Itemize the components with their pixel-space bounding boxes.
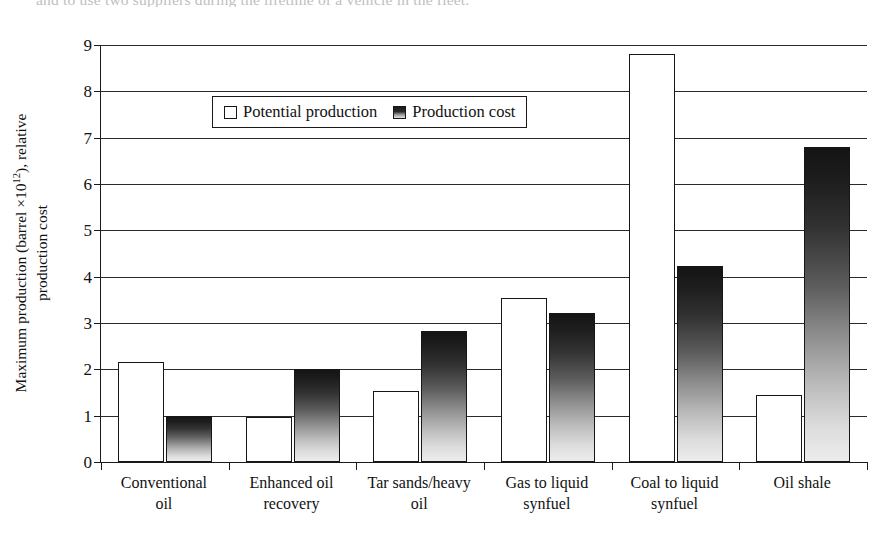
bar-potential-production bbox=[118, 362, 164, 462]
legend-entry: Production cost bbox=[393, 102, 515, 122]
x-category-label: Coal to liquidsynfuel bbox=[611, 472, 739, 515]
bar-potential-production bbox=[756, 395, 802, 462]
chart-legend: Potential productionProduction cost bbox=[212, 96, 527, 128]
legend-label: Potential production bbox=[243, 102, 377, 122]
y-tick-mark bbox=[94, 138, 101, 139]
x-category-label-line2: oil bbox=[355, 493, 483, 514]
bar-production-cost bbox=[421, 331, 467, 462]
bar-production-cost bbox=[294, 369, 340, 462]
x-category-label: Conventionaloil bbox=[100, 472, 228, 515]
gridline bbox=[101, 45, 867, 46]
x-category-label-line1: Oil shale bbox=[738, 472, 866, 493]
y-tick-mark bbox=[94, 230, 101, 231]
plot-area: Potential productionProduction cost bbox=[100, 45, 867, 463]
y-tick-label: 0 bbox=[66, 454, 92, 471]
gridline bbox=[101, 323, 867, 324]
x-tick-mark bbox=[356, 462, 357, 470]
y-tick-label: 9 bbox=[66, 37, 92, 54]
x-axis-category-labels: ConventionaloilEnhanced oilrecoveryTar s… bbox=[100, 472, 866, 536]
gridline bbox=[101, 230, 867, 231]
legend-entry: Potential production bbox=[224, 102, 377, 122]
bar-potential-production bbox=[501, 298, 547, 462]
y-tick-mark bbox=[94, 416, 101, 417]
bar-production-cost bbox=[804, 147, 850, 462]
y-tick-label: 6 bbox=[66, 176, 92, 193]
bar-production-cost bbox=[166, 416, 212, 462]
y-tick-label: 4 bbox=[66, 268, 92, 285]
bar-potential-production bbox=[373, 391, 419, 462]
y-tick-label: 2 bbox=[66, 361, 92, 378]
x-tick-mark bbox=[867, 462, 868, 470]
figure: and to use two suppliers during the life… bbox=[0, 0, 893, 542]
x-category-label-line2: oil bbox=[100, 493, 228, 514]
x-category-label: Oil shale bbox=[738, 472, 866, 493]
y-tick-mark bbox=[94, 184, 101, 185]
y-tick-mark bbox=[94, 462, 101, 463]
bar-production-cost bbox=[549, 313, 595, 462]
y-tick-label: 3 bbox=[66, 315, 92, 332]
gridline bbox=[101, 138, 867, 139]
x-category-label-line1: Enhanced oil bbox=[228, 472, 356, 493]
bar-production-cost bbox=[677, 266, 723, 462]
y-tick-mark bbox=[94, 45, 101, 46]
y-tick-mark bbox=[94, 91, 101, 92]
y-tick-mark bbox=[94, 323, 101, 324]
y-axis-exponent: 12 bbox=[11, 173, 22, 184]
x-tick-mark bbox=[612, 462, 613, 470]
y-tick-label: 1 bbox=[66, 407, 92, 424]
y-axis-title: Maximum production (barrel ×1012), relat… bbox=[0, 38, 62, 468]
y-tick-label: 7 bbox=[66, 129, 92, 146]
legend-swatch-production-cost-icon bbox=[393, 106, 406, 119]
x-category-label-line2: synfuel bbox=[611, 493, 739, 514]
legend-swatch-potential-production-icon bbox=[224, 106, 237, 119]
x-category-label: Enhanced oilrecovery bbox=[228, 472, 356, 515]
x-category-label-line1: Coal to liquid bbox=[611, 472, 739, 493]
gridline bbox=[101, 91, 867, 92]
gridline bbox=[101, 277, 867, 278]
y-tick-mark bbox=[94, 277, 101, 278]
x-category-label: Gas to liquidsynfuel bbox=[483, 472, 611, 515]
gridline bbox=[101, 369, 867, 370]
bar-potential-production bbox=[246, 417, 292, 462]
y-axis-tick-labels: 0123456789 bbox=[62, 45, 92, 462]
x-category-label-line2: synfuel bbox=[483, 493, 611, 514]
legend-label: Production cost bbox=[412, 102, 515, 122]
x-category-label-line1: Conventional bbox=[100, 472, 228, 493]
x-category-label: Tar sands/heavyoil bbox=[355, 472, 483, 515]
x-category-label-line1: Tar sands/heavy bbox=[355, 472, 483, 493]
gridline bbox=[101, 416, 867, 417]
y-tick-mark bbox=[94, 369, 101, 370]
caption-sliver: and to use two suppliers during the life… bbox=[36, 0, 596, 7]
y-axis-title-line1: Maximum production (barrel ×1012), relat… bbox=[12, 114, 29, 393]
gridline bbox=[101, 184, 867, 185]
bar-potential-production bbox=[629, 54, 675, 462]
x-category-label-line2: recovery bbox=[228, 493, 356, 514]
x-tick-mark bbox=[484, 462, 485, 470]
x-tick-mark bbox=[101, 462, 102, 470]
x-tick-mark bbox=[739, 462, 740, 470]
y-tick-label: 5 bbox=[66, 222, 92, 239]
x-category-label-line1: Gas to liquid bbox=[483, 472, 611, 493]
y-axis-title-line2: production cost bbox=[32, 38, 52, 468]
y-tick-label: 8 bbox=[66, 83, 92, 100]
x-tick-mark bbox=[229, 462, 230, 470]
